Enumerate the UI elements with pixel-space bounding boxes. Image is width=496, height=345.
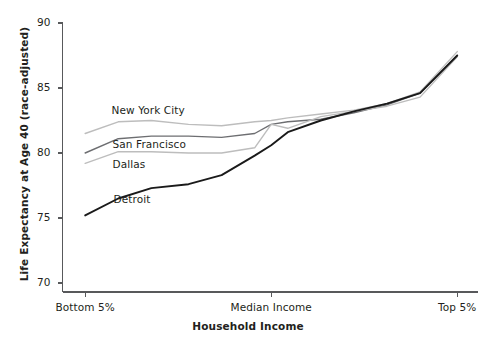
- x-tick-label: Bottom 5%: [25, 301, 145, 313]
- plot-area: [0, 0, 496, 345]
- x-tick-label: Top 5%: [397, 301, 496, 313]
- series-line-detroit: [85, 56, 457, 216]
- life-expectancy-chart: 7075808590 Bottom 5%Median IncomeTop 5% …: [0, 0, 496, 345]
- x-axis-title: Household Income: [0, 320, 496, 332]
- x-tick-label: Median Income: [211, 301, 331, 313]
- series-line-new-york-city: [85, 52, 457, 134]
- series-label-detroit: Detroit: [114, 193, 151, 205]
- series-label-dallas: Dallas: [113, 158, 146, 170]
- series-label-new-york-city: New York City: [112, 104, 185, 116]
- series-label-san-francisco: San Francisco: [113, 138, 186, 150]
- y-axis-title: Life Expectancy at Age 40 (race-adjusted…: [18, 24, 30, 284]
